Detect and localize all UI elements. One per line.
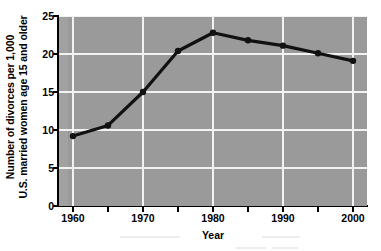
y-axis-title-line1: Number of divorces per 1,000 [4,15,17,198]
scan-artifact [120,236,180,238]
x-tick-label: 1970 [121,212,165,224]
y-tick-label: 10 [34,124,54,136]
scan-artifact [272,247,298,249]
data-point [210,30,216,36]
y-tick-label: 0 [34,200,54,212]
data-point [245,37,251,43]
scan-artifact [262,236,300,238]
data-point [315,50,321,56]
series-line [73,33,353,136]
chart-figure: Number of divorces per 1,000 U.S. marrie… [0,0,381,251]
data-point [140,89,146,95]
x-tick-mark [177,207,179,212]
x-tick-mark [317,207,319,212]
data-point [70,133,76,139]
x-tick-mark [247,207,249,212]
y-tick-label: 15 [34,86,54,98]
y-tick-label: 5 [34,162,54,174]
x-tick-label: 2000 [331,212,375,224]
y-tick-label: 25 [34,10,54,22]
y-axis-title-line2: U.S. married women age 15 and older [17,15,30,198]
x-axis-title: Year [59,229,367,241]
data-series-divorce-rate [59,16,367,206]
data-point [350,58,356,64]
data-point [280,42,286,48]
x-tick-mark [107,207,109,212]
x-tick-label: 1980 [191,212,235,224]
x-tick-label: 1990 [261,212,305,224]
y-tick-label: 20 [34,48,54,60]
x-tick-label: 1960 [51,212,95,224]
plot-area [59,16,367,206]
data-point [175,48,181,54]
y-axis-title: Number of divorces per 1,000 U.S. marrie… [0,0,34,214]
scan-artifact [236,247,266,249]
data-point [105,122,111,128]
